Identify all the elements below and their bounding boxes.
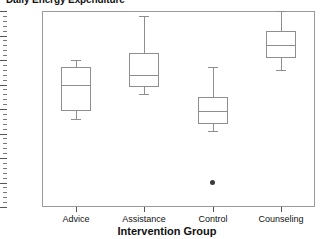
- box-iqr-rect: [266, 31, 296, 58]
- box-upper-cap: [276, 11, 286, 12]
- x-axis-title: Intervention Group: [0, 225, 334, 237]
- box-lower-cap: [71, 119, 81, 120]
- boxplot-chart: Daily Energy Expenditure 282930313233343…: [0, 0, 334, 239]
- box-upper-whisker: [144, 16, 145, 53]
- box-lower-whisker: [213, 124, 214, 131]
- box-upper-whisker: [213, 67, 214, 96]
- box-upper-cap: [208, 67, 218, 68]
- box-iqr-rect: [61, 67, 91, 111]
- box-iqr-rect: [198, 97, 228, 124]
- box-lower-cap: [139, 94, 149, 95]
- box-outlier-point: [210, 180, 215, 185]
- box-lower-cap: [276, 70, 286, 71]
- box-median-line: [198, 111, 228, 112]
- box-lower-whisker: [281, 58, 282, 70]
- box-median-line: [129, 75, 159, 76]
- box-series-layer: [0, 0, 315, 239]
- box-upper-cap: [71, 60, 81, 61]
- box-median-line: [61, 85, 91, 86]
- box-upper-whisker: [281, 11, 282, 31]
- box-median-line: [266, 45, 296, 46]
- box-lower-whisker: [76, 111, 77, 118]
- box-lower-cap: [208, 131, 218, 132]
- box-upper-cap: [139, 16, 149, 17]
- box-iqr-rect: [129, 53, 159, 87]
- box-lower-whisker: [144, 87, 145, 94]
- box-upper-whisker: [76, 60, 77, 67]
